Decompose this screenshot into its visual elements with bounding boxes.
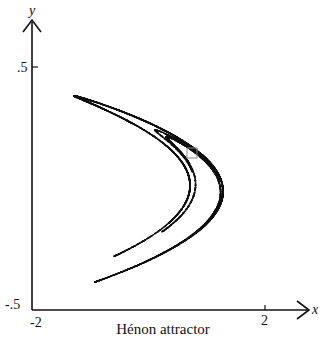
- figure-caption: Hénon attractor: [0, 321, 326, 338]
- y-axis-label: y: [29, 4, 35, 18]
- attractor-points: [74, 96, 224, 283]
- y-tick-label-bottom: -.5: [5, 298, 20, 312]
- x-axis-label: x: [312, 303, 318, 317]
- y-tick-label-top: .5: [17, 61, 28, 75]
- henon-figure: [0, 0, 326, 352]
